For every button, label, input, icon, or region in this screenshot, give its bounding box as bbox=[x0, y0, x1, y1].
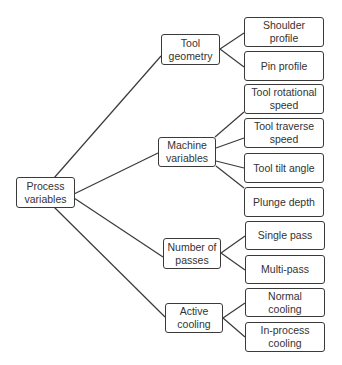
node-single-pass: Single pass bbox=[245, 221, 325, 250]
node-number-of-passes: Number of passes bbox=[163, 238, 221, 269]
node-process-variables: Process variables bbox=[16, 177, 75, 208]
node-normal-cooling: Normal cooling bbox=[245, 288, 325, 317]
node-tool-traverse-speed: Tool traverse speed bbox=[244, 118, 324, 148]
node-shoulder-profile: Shoulder profile bbox=[244, 17, 324, 47]
node-active-cooling: Active cooling bbox=[165, 303, 223, 333]
node-tool-tilt-angle: Tool tilt angle bbox=[244, 153, 324, 183]
node-plunge-depth: Plunge depth bbox=[244, 187, 324, 217]
node-multi-pass: Multi-pass bbox=[245, 255, 325, 284]
node-tool-geometry: Tool geometry bbox=[161, 34, 220, 65]
node-pin-profile: Pin profile bbox=[244, 51, 324, 81]
node-tool-rotational-speed: Tool rotational speed bbox=[244, 84, 324, 114]
node-in-process-cooling: In-process cooling bbox=[245, 322, 325, 352]
node-machine-variables: Machine variables bbox=[158, 137, 216, 167]
